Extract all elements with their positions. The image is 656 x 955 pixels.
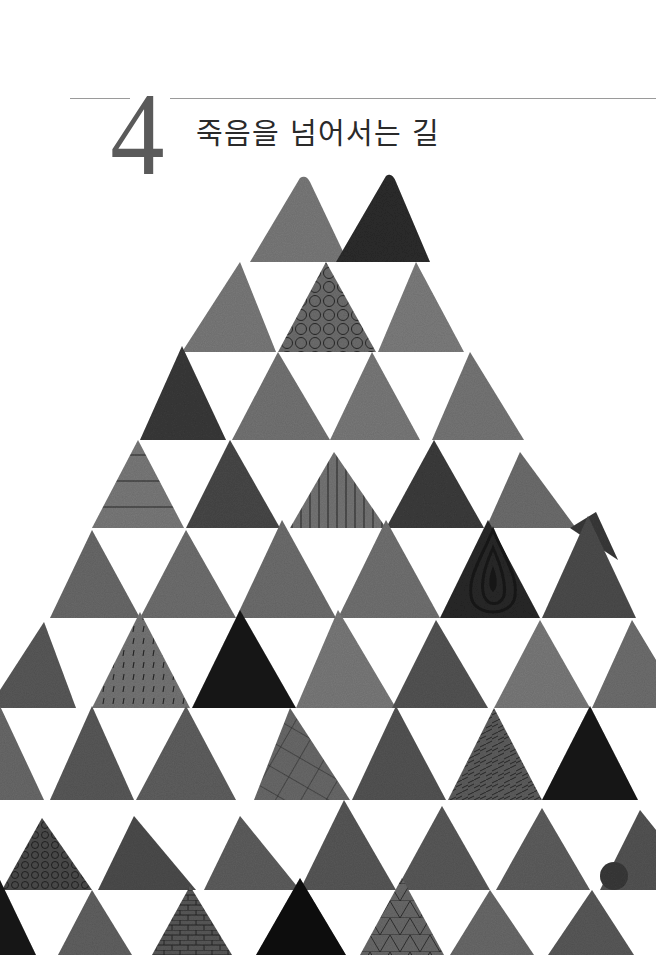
triangle-rows [0, 175, 656, 955]
triangle [250, 177, 348, 262]
triangle-pattern-illustration [0, 0, 656, 955]
